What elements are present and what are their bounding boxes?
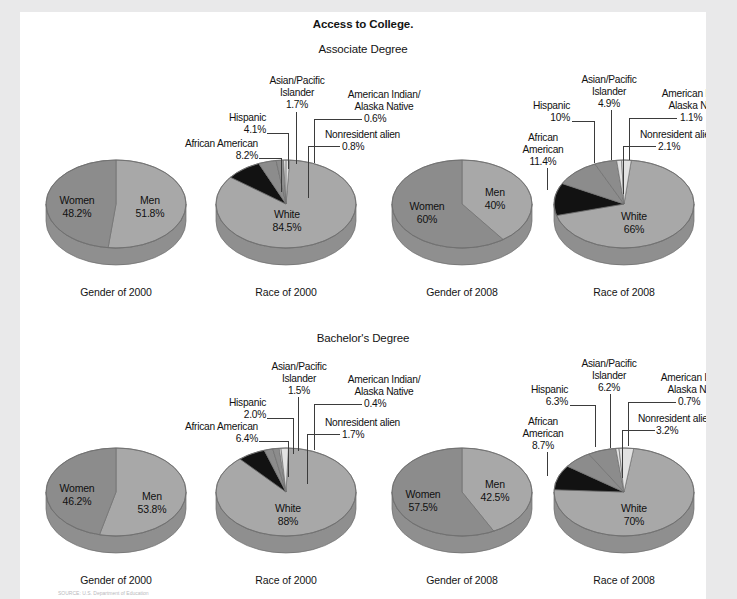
slice-label-women: Women60% [394, 200, 460, 225]
callout-nonresident-alien-value: 1.7% [342, 429, 364, 441]
leader-line-american-indian-v [628, 402, 629, 446]
leader-line-nonresident-alien-v [307, 434, 308, 484]
callout-hispanic: Hispanic4.1% [196, 112, 266, 136]
slice-label-women: Women57.5% [390, 488, 456, 513]
callout-nonresident-alien: Nonresident alien [640, 129, 706, 141]
page-title: Access to College. [20, 18, 706, 30]
chart-caption: Race of 2008 [544, 574, 704, 586]
slice-label-men: Men51.8% [122, 194, 178, 219]
leader-line-asian-pacific-islander [296, 112, 297, 164]
leader-line-nonresident-alien [308, 146, 340, 147]
leader-line-african-american [259, 158, 281, 159]
callout-american-indian-value: 0.7% [678, 396, 700, 408]
leader-line-nonresident-alien [623, 146, 656, 147]
callout-american-indian-value: 1.1% [680, 112, 702, 124]
slice-label-white: White84.5% [258, 208, 316, 233]
leader-line-american-indian [314, 404, 362, 405]
slice-label-men: Men53.8% [124, 490, 180, 515]
leader-line-american-indian [628, 402, 676, 403]
callout-african-american: African American8.2% [146, 138, 258, 162]
chart-caption: Race of 2008 [544, 286, 704, 298]
leader-line-african-american-v [281, 158, 282, 192]
callout-african-american: AfricanAmerican11.4% [508, 132, 578, 167]
leader-line-american-indian-v [629, 118, 630, 160]
callout-asian-pacific-islander: Asian/PacificIslander6.2% [570, 358, 648, 393]
callout-american-indian: American Indian/Alaska Native [330, 374, 438, 398]
leader-line-nonresident-alien-v [623, 146, 624, 194]
leader-line-hispanic [267, 418, 293, 419]
leader-line-american-indian [314, 119, 362, 120]
callout-american-indian-value: 0.6% [364, 113, 386, 125]
callout-nonresident-alien: Nonresident alien [325, 417, 400, 429]
callout-american-indian-value: 0.4% [364, 398, 386, 410]
document-page: Access to College. Associate Degree Bach… [20, 12, 706, 599]
slice-label-women: Women48.2% [44, 194, 110, 219]
leader-line-african-american [547, 452, 548, 476]
leader-line-african-american [547, 168, 548, 190]
leader-line-nonresident-alien-v [622, 430, 623, 478]
callout-asian-pacific-islander: Asian/PacificIslander4.9% [570, 74, 648, 109]
callout-nonresident-alien-value: 2.1% [658, 141, 680, 153]
leader-line-nonresident-alien [622, 430, 655, 431]
slice-label-white: White88% [260, 502, 316, 527]
leader-line-hispanic [267, 133, 288, 134]
leader-line-asian-pacific-islander [610, 394, 611, 448]
callout-american-indian: American Indian/Alaska Native [642, 372, 706, 396]
leader-line-hispanic-v [288, 133, 289, 169]
leader-line-hispanic [572, 121, 594, 122]
callout-american-indian: American Indian/Alaska Native [644, 88, 706, 112]
leader-line-american-indian-v [314, 404, 315, 450]
callout-hispanic: Hispanic10% [494, 100, 570, 124]
leader-line-nonresident-alien [307, 434, 340, 435]
leader-line-asian-pacific-islander [611, 110, 612, 160]
callout-african-american: African American6.4% [146, 421, 258, 445]
slice-label-women: Women46.2% [44, 482, 110, 507]
leader-line-hispanic-v [293, 418, 294, 454]
leader-line-hispanic-v [595, 405, 596, 447]
source-note: SOURCE: U.S. Department of Education [58, 590, 149, 596]
leader-line-american-indian [629, 118, 677, 119]
leader-line-hispanic-v [594, 121, 595, 163]
chart-caption: Gender of 2008 [382, 574, 542, 586]
slice-label-white: White66% [606, 210, 662, 235]
callout-asian-pacific-islander: Asian/PacificIslander1.5% [260, 361, 338, 396]
chart-caption: Race of 2000 [206, 286, 366, 298]
callout-asian-pacific-islander: Asian/PacificIslander1.7% [258, 75, 336, 110]
leader-line-asian-pacific-islander [298, 397, 299, 451]
callout-hispanic: Hispanic6.3% [492, 384, 568, 408]
callout-nonresident-alien: Nonresident alien [638, 413, 706, 425]
chart-caption: Gender of 2008 [382, 286, 542, 298]
callout-american-indian: American Indian/Alaska Native [330, 89, 438, 113]
callout-african-american: AfricanAmerican8.7% [508, 416, 578, 451]
chart-caption: Gender of 2000 [36, 574, 196, 586]
callout-nonresident-alien: Nonresident alien [325, 129, 400, 141]
chart-caption: Gender of 2000 [36, 286, 196, 298]
leader-line-african-american-v [288, 441, 289, 477]
slice-label-men: Men40% [470, 186, 520, 211]
callout-nonresident-alien-value: 3.2% [656, 425, 678, 437]
slice-label-men: Men42.5% [466, 478, 524, 503]
slice-label-white: White70% [606, 502, 662, 527]
leader-line-american-indian-v [314, 119, 315, 163]
section-heading-bachelor: Bachelor's Degree [20, 332, 706, 344]
leader-line-hispanic [570, 405, 595, 406]
chart-caption: Race of 2000 [206, 574, 366, 586]
section-heading-associate: Associate Degree [20, 43, 706, 55]
callout-hispanic: Hispanic2.0% [196, 397, 266, 421]
leader-line-nonresident-alien-v [308, 146, 309, 198]
leader-line-african-american [259, 441, 288, 442]
callout-nonresident-alien-value: 0.8% [342, 141, 364, 153]
